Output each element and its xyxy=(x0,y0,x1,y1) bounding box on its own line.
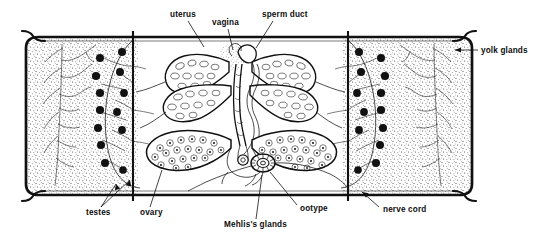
leader-mehliss-glands xyxy=(256,175,262,219)
leader-uterus xyxy=(188,21,204,47)
ovary-left xyxy=(146,130,231,171)
label-testes: testes xyxy=(86,208,111,217)
label-mehliss-glands: Mehlis's glands xyxy=(224,220,287,229)
leader-sperm-duct xyxy=(256,21,273,48)
label-sperm-duct: sperm duct xyxy=(262,10,308,19)
leader-ovary xyxy=(150,170,162,207)
label-vagina: vagina xyxy=(212,18,239,27)
reproductive-complex xyxy=(136,43,348,191)
vagina xyxy=(234,64,246,146)
label-nerve-cord: nerve cord xyxy=(383,205,426,214)
diagram-canvas: uterus vagina sperm duct yolk glands tes… xyxy=(0,0,546,236)
label-yolk-glands: yolk glands xyxy=(481,46,528,55)
proglottid-diagram: uterus vagina sperm duct yolk glands tes… xyxy=(0,0,546,236)
label-ovary: ovary xyxy=(140,208,163,217)
leader-ootype xyxy=(270,172,297,205)
ootype xyxy=(238,154,275,186)
label-ootype: ootype xyxy=(300,204,328,213)
label-uterus: uterus xyxy=(170,10,196,19)
